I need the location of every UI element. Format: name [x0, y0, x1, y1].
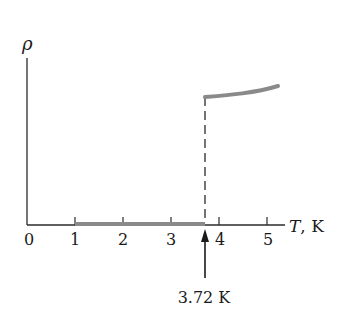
transition-annotation: 3.72 K	[178, 288, 232, 307]
resistivity-chart: ρ 0 1 2 3 4 5 T, K 3.72 K	[0, 0, 347, 313]
x-axis-label: T, K	[289, 216, 324, 236]
x-tick-label-4: 4	[215, 230, 225, 249]
x-tick-label-5: 5	[263, 230, 273, 249]
normal-state-curve	[205, 86, 278, 97]
x-tick-label-2: 2	[118, 230, 128, 249]
y-axis-label: ρ	[21, 33, 33, 54]
x-tick-label-1: 1	[70, 230, 80, 249]
x-tick-label-3: 3	[166, 230, 176, 249]
x-tick-label-0: 0	[24, 230, 34, 249]
arrow-up-icon	[201, 229, 209, 242]
